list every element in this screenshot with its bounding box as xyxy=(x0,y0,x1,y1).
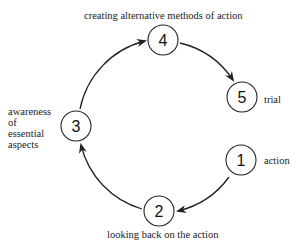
node-5-label: trial xyxy=(264,94,281,105)
node-5: 5 xyxy=(227,82,257,112)
arrow-3-to-4 xyxy=(80,41,145,109)
node-1: 1 xyxy=(226,145,256,175)
node-4-label: creating alternative methods of action xyxy=(84,10,243,21)
node-2-number: 2 xyxy=(155,203,164,220)
node-2-label: looking back on the action xyxy=(107,229,218,240)
arrow-4-to-5 xyxy=(180,43,233,80)
node-4-number: 4 xyxy=(159,32,168,49)
node-2: 2 xyxy=(144,196,174,226)
node-3-label-line: of xyxy=(8,117,51,128)
node-5-number: 5 xyxy=(238,89,247,106)
node-4: 4 xyxy=(148,25,178,55)
node-3-label-line: aspects xyxy=(8,139,51,150)
node-3: 3 xyxy=(61,111,91,141)
arrow-2-to-3 xyxy=(81,145,142,209)
arrow-1-to-2 xyxy=(178,177,229,211)
node-1-number: 1 xyxy=(237,152,246,169)
node-3-label-line: essential xyxy=(8,128,51,139)
node-3-label-line: awareness xyxy=(8,106,51,117)
node-3-number: 3 xyxy=(72,118,81,135)
node-3-label: awareness of essential aspects xyxy=(8,106,51,150)
node-1-label: action xyxy=(264,155,290,166)
